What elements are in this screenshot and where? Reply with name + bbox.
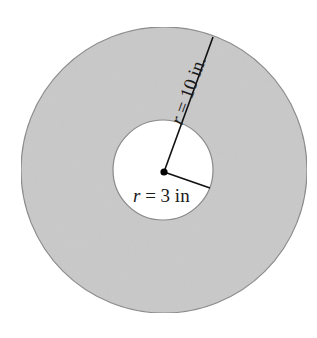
inner-radius-value: = 3 in bbox=[140, 185, 190, 206]
annulus-diagram: r = 10 in. r = 3 in bbox=[0, 0, 317, 338]
center-point bbox=[160, 168, 167, 175]
inner-radius-label: r = 3 in bbox=[133, 185, 190, 206]
